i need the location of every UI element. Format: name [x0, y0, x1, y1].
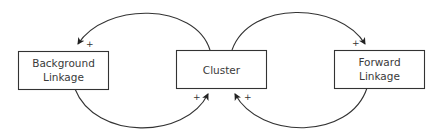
node-forward-linkage: Forward Linkage [335, 51, 425, 89]
edge-forward-to-cluster [235, 88, 367, 128]
node-label-line: Background [32, 57, 95, 69]
node-label-line: Linkage [43, 71, 84, 83]
edge-background-to-cluster [75, 89, 208, 128]
polarity-sign: + [86, 39, 94, 49]
node-cluster: Cluster [177, 51, 267, 89]
causal-loop-diagram: + + + + Background Linkage Cluster Forwa… [0, 0, 439, 135]
node-label-line: Forward [358, 56, 400, 68]
edge-cluster-to-forward [232, 12, 365, 50]
polarity-sign: + [244, 92, 252, 102]
edge-cluster-to-background [78, 13, 210, 50]
polarity-sign: + [193, 92, 201, 102]
node-label-line: Cluster [203, 64, 241, 76]
polarity-sign: + [352, 38, 360, 48]
node-label-line: Linkage [359, 70, 400, 82]
node-background-linkage: Background Linkage [19, 52, 109, 90]
